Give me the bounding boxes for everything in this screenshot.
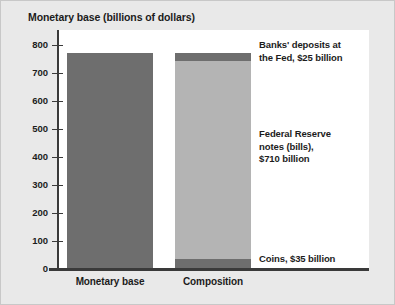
y-tick-label-300: 300 xyxy=(22,180,48,190)
y-axis-line xyxy=(57,30,59,270)
y-tick-label-wrap-300: 300 xyxy=(1,180,48,190)
category-label-composition: Composition xyxy=(167,276,259,287)
chart-figure: Monetary base (billions of dollars) 800 … xyxy=(0,0,395,305)
category-label-monetary-base: Monetary base xyxy=(57,276,163,287)
y-tick-label-600: 600 xyxy=(22,96,48,106)
annotation-bank-deposits-line1: Banks' deposits at xyxy=(259,39,379,52)
annotation-federal-reserve-notes-line1: Federal Reserve xyxy=(259,128,379,141)
chart-title: Monetary base (billions of dollars) xyxy=(28,11,195,23)
annotation-bank-deposits-line2: the Fed, $25 billion xyxy=(259,52,379,65)
bar-segment-federal-reserve-notes xyxy=(175,61,251,259)
y-tick-label-wrap-700: 700 xyxy=(1,68,48,78)
bar-composition xyxy=(175,53,251,269)
y-tick-label-700: 700 xyxy=(22,68,48,78)
annotation-federal-reserve-notes-line2: notes (bills), xyxy=(259,141,379,154)
bar-monetary-base xyxy=(67,53,153,269)
y-tick-label-0: 0 xyxy=(22,264,48,274)
bar-segment-bank-deposits xyxy=(175,53,251,61)
y-tick-label-wrap-0: 0 xyxy=(1,264,48,274)
y-tick-label-wrap-600: 600 xyxy=(1,96,48,106)
bar-segment-monetary-base-total xyxy=(67,53,153,269)
y-tick-label-wrap-500: 500 xyxy=(1,124,48,134)
y-tick-label-wrap-400: 400 xyxy=(1,152,48,162)
annotation-federal-reserve-notes: Federal Reserve notes (bills), $710 bill… xyxy=(259,128,379,166)
y-tick-label-wrap-100: 100 xyxy=(1,236,48,246)
annotation-coins-line1: Coins, $35 billion xyxy=(259,253,379,266)
y-tick-label-wrap-800: 800 xyxy=(1,40,48,50)
y-tick-label-wrap-200: 200 xyxy=(1,208,48,218)
annotation-bank-deposits: Banks' deposits at the Fed, $25 billion xyxy=(259,39,379,64)
y-tick-label-100: 100 xyxy=(22,236,48,246)
y-tick-label-800: 800 xyxy=(22,40,48,50)
annotation-coins: Coins, $35 billion xyxy=(259,253,379,266)
x-axis-line xyxy=(49,268,369,271)
annotation-federal-reserve-notes-line3: $710 billion xyxy=(259,153,379,166)
y-tick-label-400: 400 xyxy=(22,152,48,162)
y-tick-label-500: 500 xyxy=(22,124,48,134)
y-tick-label-200: 200 xyxy=(22,208,48,218)
